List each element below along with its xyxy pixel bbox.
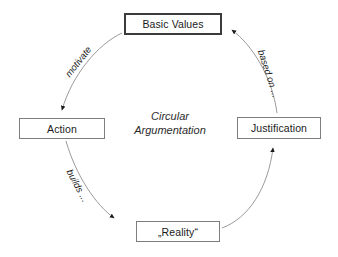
center-title: Circular Argumentation (113, 109, 227, 137)
node-reality[interactable]: „Reality“ (136, 221, 220, 242)
node-basic-values[interactable]: Basic Values (124, 13, 222, 35)
node-justification[interactable]: Justification (237, 117, 321, 139)
edge-arc-supports (222, 148, 273, 228)
node-action-label: Action (47, 123, 77, 135)
circular-argumentation-diagram: Basic Values Action „Reality“ Justificat… (0, 0, 338, 257)
node-reality-label: „Reality“ (158, 226, 198, 238)
node-action[interactable]: Action (19, 118, 105, 139)
node-basic-values-label: Basic Values (142, 18, 203, 30)
node-justification-label: Justification (251, 122, 307, 134)
center-title-line-2: Argumentation (113, 123, 227, 137)
center-title-line-1: Circular (113, 109, 227, 123)
